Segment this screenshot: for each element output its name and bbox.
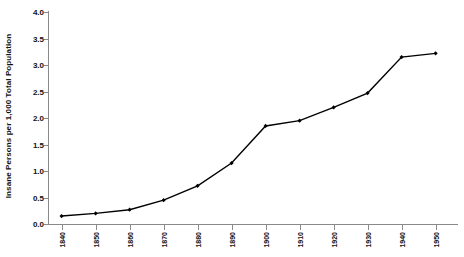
y-axis-tick-label: 1.0 <box>33 167 44 176</box>
x-axis-tick-mark <box>130 225 131 230</box>
x-axis-tick-label: 1910 <box>296 232 303 248</box>
data-point-marker <box>60 214 64 218</box>
x-axis-tick-label: 1850 <box>92 232 99 248</box>
x-axis-tick-mark <box>300 225 301 230</box>
y-axis-tick-label: 3.5 <box>33 34 44 43</box>
x-axis-tick-label: 1860 <box>126 232 133 248</box>
y-axis-tick-label: 1.5 <box>33 140 44 149</box>
x-axis-tick-mark <box>232 225 233 230</box>
x-axis-tick-label-container: 1890 <box>232 232 233 256</box>
y-axis-tick-label: 3.0 <box>33 61 44 70</box>
y-axis-title: Insane Persons per 1,000 Total Populatio… <box>4 34 13 198</box>
series-markers <box>60 51 438 218</box>
y-axis-tick-mark <box>44 224 49 225</box>
x-axis-tick-mark <box>96 225 97 230</box>
data-point-marker <box>128 208 132 212</box>
x-axis-line <box>48 224 458 225</box>
y-axis-title-container: Insane Persons per 1,000 Total Populatio… <box>0 0 16 232</box>
y-axis-tick-label: 2.0 <box>33 114 44 123</box>
x-axis-tick-label-container: 1920 <box>334 232 335 256</box>
x-axis-tick-label: 1940 <box>398 232 405 248</box>
x-axis-tick-label-container: 1900 <box>266 232 267 256</box>
data-series-plot <box>48 12 456 224</box>
data-point-marker <box>332 105 336 109</box>
x-axis-tick-label-container: 1930 <box>368 232 369 256</box>
x-axis-tick-label-container: 1880 <box>198 232 199 256</box>
data-point-marker <box>298 119 302 123</box>
y-axis-tick-label: 0.0 <box>33 220 44 229</box>
y-axis-tick-labels: 0.00.51.01.52.02.53.03.54.0 <box>16 0 46 240</box>
data-point-marker <box>94 211 98 215</box>
x-axis-tick-mark <box>266 225 267 230</box>
x-axis-tick-mark <box>334 225 335 230</box>
x-axis-tick-mark <box>62 225 63 230</box>
y-axis-tick-label: 0.5 <box>33 193 44 202</box>
x-axis-tick-label-container: 1940 <box>402 232 403 256</box>
x-axis-tick-label-container: 1950 <box>436 232 437 256</box>
x-axis-tick-label-container: 1860 <box>130 232 131 256</box>
x-axis-tick-label: 1900 <box>262 232 269 248</box>
x-axis-tick-label: 1950 <box>432 232 439 248</box>
x-axis-tick-label: 1920 <box>330 232 337 248</box>
x-axis-tick-label: 1890 <box>228 232 235 248</box>
x-axis-tick-label: 1880 <box>194 232 201 248</box>
data-point-marker <box>162 198 166 202</box>
x-axis-tick-label: 1870 <box>160 232 167 248</box>
y-axis-tick-label: 2.5 <box>33 87 44 96</box>
x-axis-tick-mark <box>402 225 403 230</box>
x-axis-tick-label-container: 1910 <box>300 232 301 256</box>
x-axis-tick-mark <box>164 225 165 230</box>
x-axis-tick-label-container: 1850 <box>96 232 97 256</box>
x-axis-tick-mark <box>436 225 437 230</box>
x-axis-tick-mark <box>368 225 369 230</box>
x-axis-tick-label-container: 1840 <box>62 232 63 256</box>
series-line <box>62 53 436 216</box>
x-axis-tick-label: 1930 <box>364 232 371 248</box>
data-point-marker <box>434 51 438 55</box>
chart-figure: Insane Persons per 1,000 Total Populatio… <box>0 0 464 257</box>
x-axis-tick-label-container: 1870 <box>164 232 165 256</box>
x-axis-tick-label: 1840 <box>58 232 65 248</box>
x-axis-tick-mark <box>198 225 199 230</box>
y-axis-tick-label: 4.0 <box>33 8 44 17</box>
